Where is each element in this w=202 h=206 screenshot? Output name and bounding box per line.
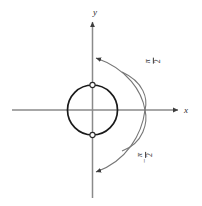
fraction-denominator: 2 [154, 58, 162, 64]
fraction-pi-over-2: π2 [144, 58, 163, 64]
upper-rotation-arc [96, 58, 146, 151]
x-axis-label: x [183, 105, 188, 115]
diagram-svg: x y [0, 0, 202, 206]
angle-label-pi-over-2: π2 [144, 58, 163, 65]
angle-sign-negative: − [142, 158, 150, 163]
marker-bottom-intersection [90, 132, 95, 137]
fraction-numerator: π [144, 58, 152, 64]
angle-label-negative-pi-over-2: −π2 [136, 152, 155, 163]
fraction-denominator: 2 [147, 152, 155, 158]
fraction-neg-pi-over-2: π2 [136, 152, 155, 158]
y-axis-label: y [92, 7, 97, 17]
marker-top-intersection [90, 82, 95, 87]
fraction-numerator: π [136, 152, 144, 158]
figure-canvas: x y π2 −π2 [0, 0, 202, 206]
